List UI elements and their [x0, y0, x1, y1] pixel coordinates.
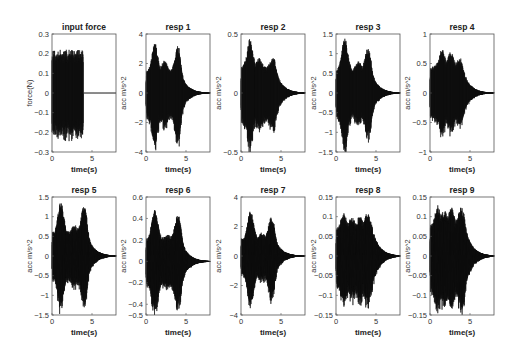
signal-trace — [430, 205, 494, 314]
x-tick-label: 5 — [468, 154, 472, 163]
y-tick-label: −0.15 — [408, 311, 427, 320]
y-tick-label: 0 — [139, 257, 143, 266]
y-tick-label: −0.15 — [314, 311, 333, 320]
x-tick-label: 5 — [374, 154, 378, 163]
x-axis-label: time(s) — [71, 328, 98, 337]
y-tick-label: 0.1 — [39, 69, 49, 78]
y-axis-label: acc m/s^2 — [403, 76, 412, 110]
y-tick-label: 0.2 — [133, 236, 143, 245]
subplot-input-force: input force0.30.20.10−0.1−0.2−0.305time(… — [25, 22, 116, 174]
signal-trace — [52, 50, 116, 141]
x-axis-label: time(s) — [355, 165, 382, 174]
y-tick-label: −0.1 — [412, 291, 427, 300]
y-tick-label: 0.05 — [412, 232, 427, 241]
subplot-resp-9: resp 90.150.10.050−0.05−0.1−0.1505time(s… — [403, 185, 494, 337]
y-tick-label: 0.4 — [133, 214, 143, 223]
y-tick-label: 1 — [329, 49, 333, 58]
y-tick-label: −0.1 — [318, 291, 333, 300]
y-axis-label: acc m/s^2 — [309, 76, 318, 110]
y-tick-label: −1 — [40, 291, 49, 300]
y-axis-label: force(N) — [25, 79, 34, 107]
x-tick-label: 5 — [184, 317, 188, 326]
subplot-title: input force — [62, 22, 106, 32]
x-tick-label: 5 — [374, 317, 378, 326]
y-tick-label: 0.5 — [417, 59, 427, 68]
x-tick-label: 5 — [468, 317, 472, 326]
y-tick-label: −0.2 — [128, 278, 143, 287]
y-tick-label: 0 — [329, 89, 333, 98]
y-axis-label: acc m/s^2 — [119, 76, 128, 110]
subplot-resp-7: resp 7420−2−405time(s)acc m/s^2 — [214, 185, 305, 337]
x-tick-label: 0 — [334, 317, 338, 326]
y-tick-label: 0 — [423, 89, 427, 98]
signal-trace — [241, 212, 305, 308]
y-tick-label: −0.5 — [34, 271, 49, 280]
y-tick-label: 0 — [234, 89, 238, 98]
x-axis-label: time(s) — [449, 328, 476, 337]
y-tick-label: −0.1 — [34, 108, 49, 117]
x-axis-label: time(s) — [71, 165, 98, 174]
x-axis-label: time(s) — [355, 328, 382, 337]
y-tick-label: 0.6 — [133, 193, 143, 202]
y-axis-label: acc m/s^2 — [25, 239, 34, 273]
subplot-title: resp 9 — [449, 185, 474, 195]
x-tick-label: 0 — [144, 317, 148, 326]
y-tick-label: 4 — [234, 193, 238, 202]
signal-trace — [241, 39, 305, 152]
x-tick-label: 5 — [279, 154, 283, 163]
y-tick-label: −0.5 — [412, 118, 427, 127]
subplot-resp-3: resp 31.510.50−0.5−1−1.505time(s)acc m/s… — [309, 22, 400, 174]
y-tick-label: −0.5 — [318, 108, 333, 117]
y-tick-label: −1.5 — [34, 311, 49, 320]
y-axis-label: acc m/s^2 — [214, 239, 223, 273]
y-tick-label: 0 — [139, 89, 143, 98]
x-tick-label: 5 — [184, 154, 188, 163]
y-tick-label: −1 — [324, 128, 333, 137]
y-tick-label: −0.5 — [223, 148, 238, 157]
x-axis-label: time(s) — [165, 328, 192, 337]
signal-trace — [146, 210, 210, 315]
subplot-title: resp 4 — [449, 22, 474, 32]
y-tick-label: −0.2 — [34, 128, 49, 137]
y-tick-label: 0.3 — [39, 30, 49, 39]
y-tick-label: 1 — [45, 212, 49, 221]
y-tick-label: 0.15 — [318, 193, 333, 202]
x-tick-label: 0 — [144, 154, 148, 163]
subplot-resp-5: resp 51.510.50−0.5−1−1.505time(s)acc m/s… — [25, 185, 116, 337]
subplot-resp-1: resp 1420−2−405time(s)acc m/s^2 — [119, 22, 210, 174]
y-axis-label: acc m/s^2 — [119, 239, 128, 273]
y-tick-label: −0.4 — [128, 300, 143, 309]
signal-trace — [336, 213, 400, 308]
subplot-resp-2: resp 20.50−0.505time(s)acc m/s^2 — [214, 22, 305, 174]
subplot-title: resp 3 — [355, 22, 380, 32]
x-tick-label: 5 — [279, 317, 283, 326]
signal-trace — [52, 204, 116, 314]
y-tick-label: 0.1 — [323, 212, 333, 221]
figure-grid: input force0.30.20.10−0.1−0.2−0.305time(… — [0, 0, 524, 356]
y-tick-label: −0.5 — [128, 311, 143, 320]
subplot-title: resp 2 — [260, 22, 285, 32]
x-tick-label: 0 — [239, 154, 243, 163]
y-tick-label: 0.2 — [39, 49, 49, 58]
y-tick-label: −0.3 — [34, 148, 49, 157]
signal-trace — [430, 50, 494, 137]
x-tick-label: 5 — [90, 317, 94, 326]
y-tick-label: 2 — [139, 59, 143, 68]
y-axis-label: acc m/s^2 — [309, 239, 318, 273]
y-tick-label: 0 — [45, 252, 49, 261]
y-tick-label: 0.5 — [39, 232, 49, 241]
signal-trace — [146, 44, 210, 150]
y-tick-label: 0.15 — [412, 193, 427, 202]
x-axis-label: time(s) — [165, 165, 192, 174]
y-tick-label: −4 — [134, 148, 143, 157]
y-tick-label: −2 — [229, 281, 238, 290]
y-tick-label: 0.5 — [228, 30, 238, 39]
subplot-title: resp 8 — [355, 185, 380, 195]
x-axis-label: time(s) — [260, 328, 287, 337]
subplot-resp-8: resp 80.150.10.050−0.05−0.1−0.1505time(s… — [309, 185, 400, 337]
y-tick-label: 2 — [234, 222, 238, 231]
y-tick-label: 0.05 — [318, 232, 333, 241]
y-tick-label: 0 — [45, 89, 49, 98]
y-tick-label: 0 — [329, 252, 333, 261]
x-tick-label: 0 — [239, 317, 243, 326]
